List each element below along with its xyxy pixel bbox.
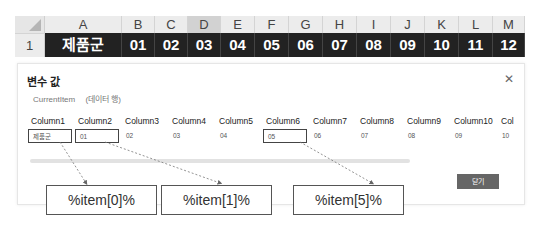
column-header-f[interactable]: F (255, 16, 289, 33)
grid-column: Col 10 (498, 114, 518, 143)
column-header-k[interactable]: K (425, 16, 459, 33)
cell-b1[interactable]: 01 (122, 33, 155, 57)
column-header-l[interactable]: L (459, 16, 493, 33)
grid-column: Column6 05 (263, 114, 310, 143)
grid-column: Column8 07 (357, 114, 404, 143)
grid-cell[interactable]: 05 (263, 129, 307, 143)
cell-e1[interactable]: 04 (221, 33, 255, 57)
grid-column: Column9 08 (404, 114, 451, 143)
grid-cell[interactable]: 제품군 (28, 129, 72, 143)
dialog-title: 변수 값 (27, 73, 60, 89)
cell-f1[interactable]: 05 (255, 33, 289, 57)
grid-column-header: Column6 (263, 114, 310, 128)
column-header-b[interactable]: B (122, 16, 155, 33)
grid-cell[interactable]: 10 (498, 129, 518, 143)
grid-column: Column7 06 (310, 114, 357, 143)
close-icon[interactable]: ✕ (504, 72, 514, 86)
column-header-m[interactable]: M (493, 16, 525, 33)
callout-item-1: %item[1]% (161, 185, 272, 215)
variable-info: CurrentItem (데이터 행) (33, 93, 129, 104)
cell-c1[interactable]: 02 (155, 33, 188, 57)
cell-g1[interactable]: 06 (289, 33, 323, 57)
variable-name: CurrentItem (33, 95, 75, 104)
spreadsheet-column-headers: A B C D E F G H I J K L M (15, 16, 525, 33)
row-header-1[interactable]: 1 (15, 33, 45, 57)
column-header-j[interactable]: J (391, 16, 425, 33)
grid-column-header: Col (498, 114, 518, 128)
cell-l1[interactable]: 11 (459, 33, 493, 57)
grid-cell[interactable]: 07 (357, 129, 404, 143)
grid-column-header: Column7 (310, 114, 357, 128)
grid-column-header: Column10 (451, 114, 498, 128)
cell-m1[interactable]: 12 (493, 33, 525, 57)
variable-type: (데이터 행) (85, 95, 121, 104)
cell-a1[interactable]: 제품군 (45, 33, 122, 57)
variable-value-dialog: 변수 값 ✕ CurrentItem (데이터 행) Column1 제품군 C… (17, 63, 525, 205)
grid-cell[interactable]: 04 (216, 129, 263, 143)
select-all-corner[interactable] (15, 16, 45, 33)
grid-column-header: Column5 (216, 114, 263, 128)
grid-column-header: Column9 (404, 114, 451, 128)
cell-i1[interactable]: 08 (357, 33, 391, 57)
stage: A B C D E F G H I J K L M 1 제품군 01 02 03… (0, 0, 538, 226)
grid-column: Column2 01 (75, 114, 122, 143)
column-header-g[interactable]: G (289, 16, 323, 33)
column-header-h[interactable]: H (323, 16, 357, 33)
grid-column: Column3 02 (122, 114, 169, 143)
grid-column: Column4 03 (169, 114, 216, 143)
close-button[interactable]: 닫기 (457, 174, 499, 189)
cell-j1[interactable]: 09 (391, 33, 425, 57)
callout-item-5: %item[5]% (293, 185, 404, 215)
cell-h1[interactable]: 07 (323, 33, 357, 57)
cell-k1[interactable]: 10 (425, 33, 459, 57)
data-row-grid: Column1 제품군 Column2 01 Column3 02 Column… (28, 114, 518, 143)
grid-column: Column1 제품군 (28, 114, 75, 143)
grid-cell[interactable]: 08 (404, 129, 451, 143)
grid-cell[interactable]: 09 (451, 129, 498, 143)
column-header-c[interactable]: C (155, 16, 188, 33)
spreadsheet-row-1: 1 제품군 01 02 03 04 05 06 07 08 09 10 11 1… (15, 33, 525, 57)
grid-cell[interactable]: 03 (169, 129, 216, 143)
grid-cell[interactable]: 02 (122, 129, 169, 143)
grid-column-header: Column1 (28, 114, 75, 128)
callout-item-0: %item[0]% (46, 185, 157, 215)
grid-cell[interactable]: 06 (310, 129, 357, 143)
grid-column-header: Column3 (122, 114, 169, 128)
grid-column-header: Column2 (75, 114, 122, 128)
cell-d1[interactable]: 03 (188, 33, 221, 57)
horizontal-scrollbar[interactable] (30, 159, 410, 163)
column-header-e[interactable]: E (221, 16, 255, 33)
grid-column: Column5 04 (216, 114, 263, 143)
column-header-a[interactable]: A (45, 16, 122, 33)
grid-column-header: Column8 (357, 114, 404, 128)
column-header-d[interactable]: D (188, 16, 221, 33)
grid-column: Column10 09 (451, 114, 498, 143)
column-header-i[interactable]: I (357, 16, 391, 33)
grid-column-header: Column4 (169, 114, 216, 128)
grid-cell[interactable]: 01 (75, 129, 119, 143)
